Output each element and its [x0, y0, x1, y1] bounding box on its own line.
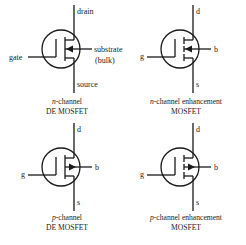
caption-line-1: n-channel: [52, 97, 82, 106]
source-label: s: [196, 198, 199, 207]
caption-line-2: MOSFET: [171, 223, 201, 232]
mosfet-symbols-diagram: drainsourcegatesubstrate(bulk)n-channelD…: [0, 0, 246, 245]
substrate-label: substrate: [94, 45, 123, 54]
source-label: source: [77, 80, 98, 89]
caption-line-1: p-channel: [51, 213, 82, 222]
caption-line-2: DE MOSFET: [46, 107, 88, 116]
substrate-arrow-icon: [69, 164, 76, 171]
bulk-label: (bulk): [95, 56, 115, 65]
source-label: s: [77, 198, 80, 207]
substrate-arrow-icon: [66, 46, 73, 53]
gate-label: g: [140, 52, 144, 61]
mosfet-symbol-p-de: dsgbp-channelDE MOSFET: [21, 123, 99, 232]
drain-label: d: [196, 7, 200, 16]
mosfet-symbol-p-enh: dsgbp-channel enhancementMOSFET: [140, 123, 223, 232]
caption-line-2: MOSFET: [171, 107, 201, 116]
substrate-label: b: [95, 163, 99, 172]
substrate-arrow-icon: [188, 164, 195, 171]
gate-label: g: [21, 170, 25, 179]
caption-line-1: p-channel enhancement: [149, 213, 223, 222]
drain-label: d: [77, 125, 81, 134]
gate-label: g: [140, 170, 144, 179]
source-label: s: [196, 80, 199, 89]
drain-label: d: [196, 125, 200, 134]
mosfet-symbol-n-de: drainsourcegatesubstrate(bulk)n-channelD…: [9, 5, 123, 116]
mosfet-symbol-n-enh: dsgbn-channel enhancementMOSFET: [140, 5, 223, 116]
substrate-arrow-icon: [185, 46, 192, 53]
caption-line-1-rest: -channel: [56, 97, 82, 106]
caption-line-1: n-channel enhancement: [150, 97, 223, 106]
caption-line-1-rest: -channel enhancement: [154, 97, 223, 106]
substrate-label: b: [214, 45, 218, 54]
caption-line-1-rest: -channel enhancement: [154, 213, 223, 222]
caption-line-2: DE MOSFET: [46, 223, 88, 232]
drain-label: drain: [77, 7, 93, 16]
gate-label: gate: [9, 53, 23, 62]
substrate-label: b: [214, 163, 218, 172]
caption-line-1-rest: -channel: [56, 213, 82, 222]
diagram-canvas: drainsourcegatesubstrate(bulk)n-channelD…: [0, 0, 246, 245]
